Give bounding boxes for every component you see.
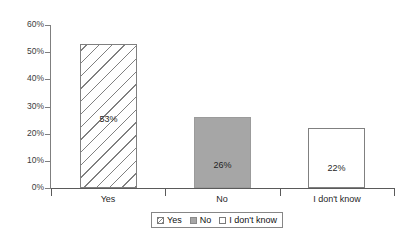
legend-label: Yes [167,215,182,225]
y-axis-tick-label-text: 0% [4,183,44,192]
y-axis-tick-label: 0% [0,183,44,192]
y-axis-tick-label-text: 30% [4,102,44,111]
y-axis-tick-label-text: 40% [4,74,44,83]
bar-no[interactable]: 26% [194,117,251,188]
y-axis-tick-label: 20% [0,129,44,138]
legend-item[interactable]: No [190,215,212,225]
x-axis-line [51,188,395,189]
bar-value-label: 22% [309,163,364,173]
y-axis-tick [45,134,50,135]
y-axis-tick-label-text: 50% [4,47,44,56]
x-axis-category-label: No [165,194,279,205]
y-axis-tick-label: 30% [0,102,44,111]
legend-swatch-icon [219,217,226,224]
y-axis-tick [45,107,50,108]
bar-value-label: 26% [195,160,250,170]
bar-value-label: 53% [81,114,136,124]
y-axis-tick [45,25,50,26]
x-axis-tick [394,188,395,196]
bar-chart: 0%10%20%30%40%50%60% 53%26%22% YesNoI do… [0,0,413,240]
x-axis-category-label: Yes [51,194,165,205]
legend-label: I don't know [229,215,277,225]
y-axis-tick [45,188,50,189]
chart-legend: YesNoI don't know [151,212,283,228]
legend-label: No [200,215,212,225]
y-axis-tick [45,161,50,162]
y-axis-tick-label: 10% [0,156,44,165]
y-axis-tick-label-text: 20% [4,129,44,138]
legend-swatch-icon [190,217,197,224]
plot-area: 53%26%22% [51,25,394,188]
y-axis-tick-label: 60% [0,20,44,29]
legend-item[interactable]: I don't know [219,215,277,225]
y-axis-tick-label: 40% [0,74,44,83]
bar-i-don-t-know[interactable]: 22% [308,128,365,188]
x-axis-category-label: I don't know [280,194,394,205]
bar-yes[interactable]: 53% [80,44,137,188]
legend-swatch-icon [157,217,164,224]
y-axis-tick-label: 50% [0,47,44,56]
y-axis-tick [45,79,50,80]
y-axis-tick-label-text: 60% [4,20,44,29]
legend-item[interactable]: Yes [157,215,182,225]
y-axis-tick [45,52,50,53]
y-axis-tick-label-text: 10% [4,156,44,165]
